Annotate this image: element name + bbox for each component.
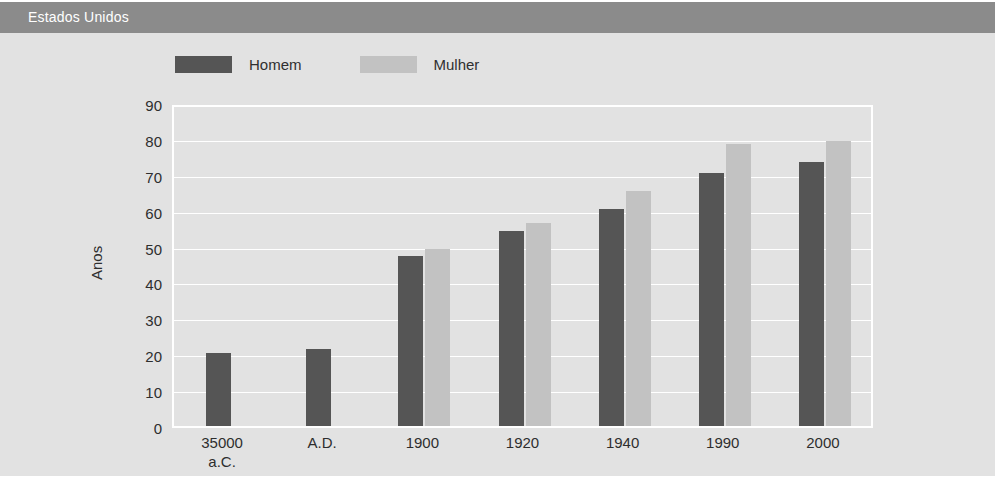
y-axis-tick-label: 40 [102, 276, 162, 293]
gridline [174, 213, 871, 214]
gridline [174, 141, 871, 142]
bar-homem-0 [206, 353, 231, 426]
bar-mulher-3 [526, 223, 551, 426]
x-axis-tick-label: 1990 [673, 433, 773, 452]
x-axis-tick-label: A.D. [272, 433, 372, 452]
x-axis-tick-label: 1900 [372, 433, 472, 452]
gridline [174, 177, 871, 178]
bar-mulher-6 [826, 141, 851, 426]
page-title: Estados Unidos [28, 9, 129, 25]
y-axis-tick-label: 90 [102, 97, 162, 114]
legend-item-homem[interactable]: Homem [175, 56, 302, 73]
chart-figure: HomemMulher Anos 9080706050403020100 350… [0, 33, 995, 476]
x-axis-tick-label: 2000 [773, 433, 873, 452]
legend-label: Mulher [434, 56, 480, 73]
y-axis-ticks: Anos 9080706050403020100 [100, 105, 162, 428]
y-axis-tick-label: 30 [102, 312, 162, 329]
legend-swatch-icon [175, 56, 232, 73]
x-axis-tick-label: 1940 [573, 433, 673, 452]
bar-homem-1 [306, 349, 331, 426]
bar-homem-2 [398, 256, 423, 426]
bar-homem-3 [499, 231, 524, 426]
y-axis-tick-label: 0 [102, 420, 162, 437]
y-axis-tick-label: 70 [102, 168, 162, 185]
chart-legend: HomemMulher [175, 53, 537, 75]
bar-mulher-4 [626, 191, 651, 426]
x-axis-tick-label: 1920 [472, 433, 572, 452]
bar-mulher-2 [425, 249, 450, 426]
title-bar: Estados Unidos [0, 2, 995, 33]
y-axis-tick-label: 20 [102, 348, 162, 365]
y-axis-tick-label: 60 [102, 204, 162, 221]
x-axis-line [172, 426, 873, 428]
bar-homem-5 [699, 173, 724, 426]
legend-label: Homem [249, 56, 302, 73]
plot-area [172, 105, 873, 428]
chart-page: Estados Unidos HomemMulher Anos 90807060… [0, 0, 995, 494]
legend-swatch-icon [360, 56, 417, 73]
y-axis-tick-label: 10 [102, 384, 162, 401]
bar-homem-4 [599, 209, 624, 426]
y-axis-tick-label: 50 [102, 240, 162, 257]
y-axis-tick-label: 80 [102, 132, 162, 149]
bar-mulher-5 [726, 144, 751, 426]
bar-homem-6 [799, 162, 824, 426]
x-axis-tick-label: 35000 a.C. [172, 433, 272, 471]
legend-item-mulher[interactable]: Mulher [360, 56, 480, 73]
